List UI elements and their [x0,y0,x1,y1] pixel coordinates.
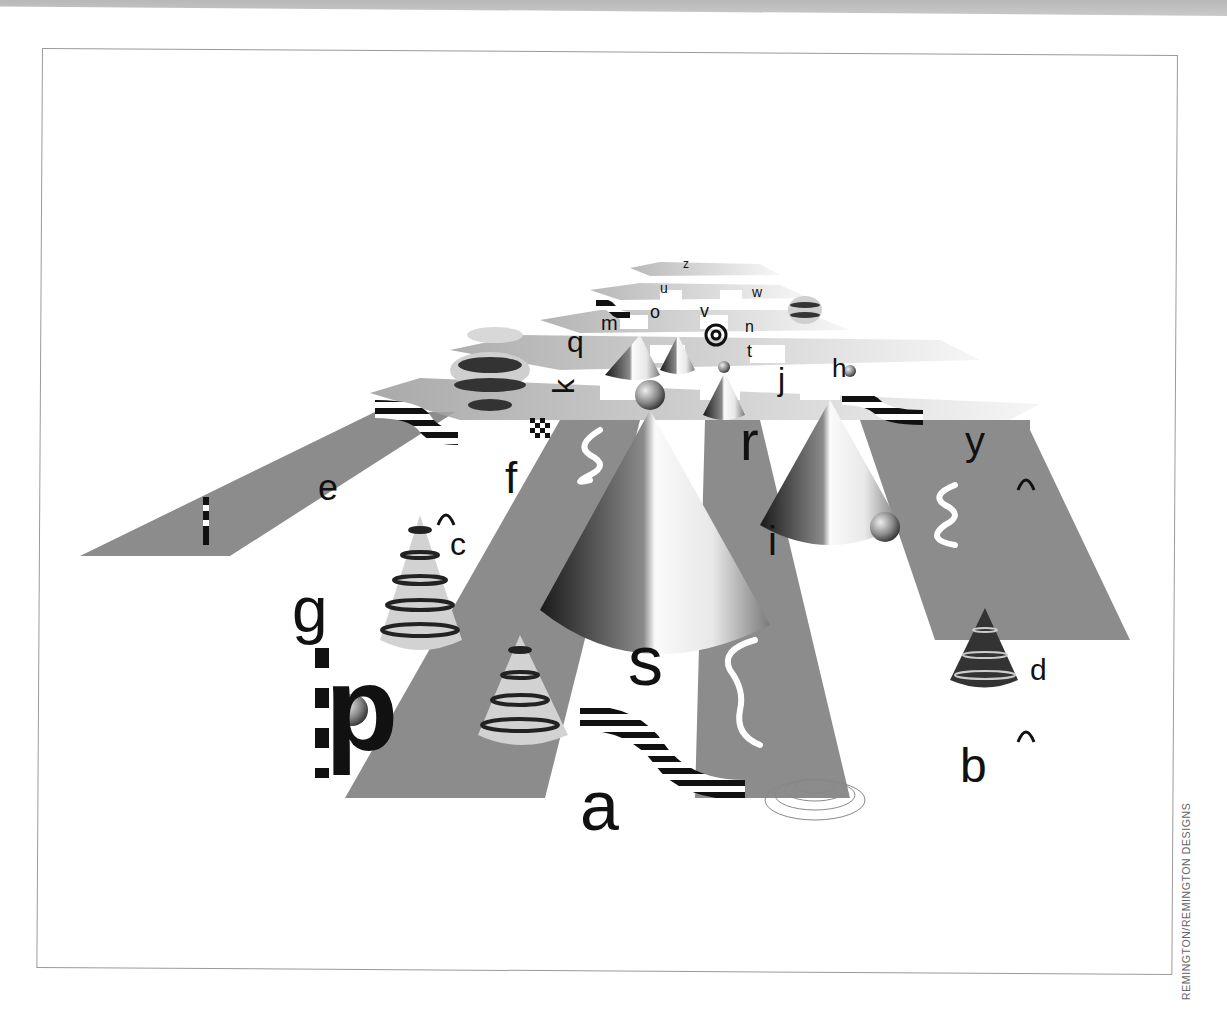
letter-y: y [965,419,985,463]
letter-s: s [628,622,663,700]
letter-t: t [747,341,752,361]
letter-d: d [1030,653,1047,686]
letter-u: u [660,280,668,296]
letter-i: i [768,519,777,563]
letter-n: n [745,318,754,335]
letter-a: a [580,767,619,845]
letter-h: h [832,353,846,383]
letter-c: c [450,526,466,562]
letter-e: e [318,467,338,508]
checkerboard-plane [370,262,1040,420]
letter-b: b [960,739,987,792]
letter-f: f [505,453,518,502]
letter-g: g [292,574,328,646]
photo-credit: REMINGTON/REMINGTON DESIGNS [1180,803,1192,1000]
letter-r: r [740,409,759,472]
letter-m: m [601,312,618,334]
alphabet-illustration: a b c d e f g h i j k m n o p q r s t u … [0,0,1227,1016]
letter-v: v [700,301,709,321]
letter-j: j [777,361,785,397]
letter-w: w [751,284,763,300]
letter-p: p [325,641,398,775]
letter-z: z [683,257,689,271]
letter-q: q [567,325,584,358]
letter-k: k [547,378,580,394]
letter-o: o [650,302,660,322]
